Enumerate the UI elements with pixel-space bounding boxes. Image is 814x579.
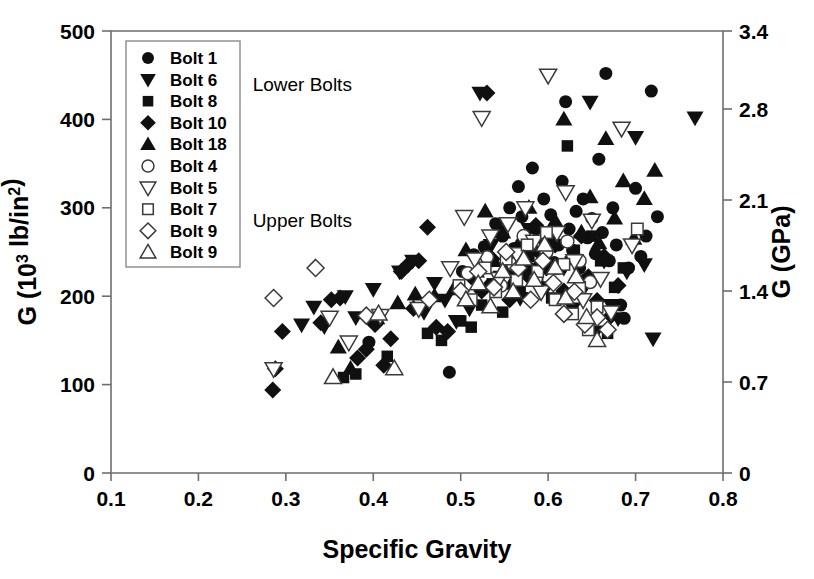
- data-point-circle-filled: [651, 210, 664, 223]
- data-point-diamond-open: [307, 259, 324, 276]
- legend[interactable]: Bolt 1Bolt 6Bolt 8Bolt 10Bolt 18Bolt 4Bo…: [126, 41, 240, 267]
- x-tick-label: 0.1: [96, 487, 126, 510]
- annotation-lower-bolts: Lower Bolts: [253, 74, 352, 95]
- data-point-circle-filled: [629, 182, 642, 195]
- data-point-square-open: [521, 239, 533, 251]
- data-points-layer: [264, 67, 703, 398]
- data-point-circle-filled: [537, 192, 550, 205]
- x-axis-title: Specific Gravity: [323, 535, 512, 563]
- legend-item-label: Bolt 8: [170, 92, 217, 111]
- x-tick-label: 0.2: [184, 487, 213, 510]
- y-tick-label-left: 200: [60, 285, 95, 308]
- data-point-diamond-filled: [274, 323, 291, 340]
- legend-item-label: Bolt 9: [170, 222, 217, 241]
- x-axis-ticks: 0.10.20.30.40.50.60.70.8: [96, 473, 738, 510]
- group-annotations: Lower BoltsUpper Bolts: [253, 74, 352, 231]
- data-point-triangle-down-open: [540, 69, 557, 84]
- x-tick-label: 0.7: [621, 487, 650, 510]
- y-tick-label-right: 0: [739, 462, 751, 485]
- y-axis-title-right: G (GPa): [767, 205, 795, 298]
- data-point-triangle-down-filled: [365, 283, 382, 298]
- y-axis-right-ticks: 00.71.42.12.83.4: [723, 20, 769, 485]
- x-tick-label: 0.6: [534, 487, 563, 510]
- y-tick-label-right: 2.1: [739, 189, 769, 212]
- legend-item-label: Bolt 10: [170, 114, 227, 133]
- y-tick-label-left: 0: [83, 462, 95, 485]
- data-point-circle-filled: [512, 180, 525, 193]
- data-point-square-filled: [562, 140, 574, 152]
- data-point-square-filled: [455, 315, 467, 327]
- data-point-diamond-filled: [264, 381, 281, 398]
- data-point-triangle-down-filled: [645, 333, 662, 348]
- data-point-triangle-down-open: [583, 214, 600, 229]
- data-point-triangle-up-filled: [477, 203, 494, 218]
- data-point-circle-filled: [610, 238, 623, 251]
- data-point-triangle-down-filled: [636, 258, 653, 273]
- data-point-triangle-up-filled: [615, 173, 632, 188]
- data-point-triangle-down-filled: [686, 112, 703, 127]
- legend-item-label: Bolt 18: [170, 135, 227, 154]
- x-tick-label: 0.8: [708, 487, 738, 510]
- legend-item-label: Bolt 7: [170, 200, 217, 219]
- legend-item-label: Bolt 9: [170, 243, 217, 262]
- data-point-triangle-down-filled: [627, 131, 644, 146]
- y-tick-label-right: 1.4: [739, 280, 769, 303]
- y-tick-label-right: 2.8: [739, 98, 769, 121]
- data-point-square-filled: [618, 262, 630, 274]
- data-point-triangle-down-filled: [305, 301, 322, 316]
- data-point-square-open: [143, 204, 154, 215]
- annotation-upper-bolts: Upper Bolts: [253, 210, 352, 231]
- data-point-triangle-up-filled: [389, 295, 406, 310]
- data-point-triangle-up-filled: [555, 111, 572, 126]
- data-point-triangle-down-open: [613, 122, 630, 137]
- y-tick-label-right: 3.4: [739, 20, 769, 43]
- data-point-circle-filled: [570, 205, 583, 218]
- data-point-circle-filled: [599, 67, 612, 80]
- scatter-plot-figure: 0.10.20.30.40.50.60.70.8 010020030040050…: [0, 0, 814, 579]
- y-axis-title-left: G (103 lb/in2): [0, 179, 41, 326]
- y-tick-label-left: 100: [60, 373, 95, 396]
- data-point-triangle-up-filled: [597, 130, 614, 145]
- data-point-triangle-up-filled: [646, 162, 663, 177]
- legend-item-label: Bolt 1: [170, 49, 217, 68]
- x-tick-label: 0.5: [446, 487, 476, 510]
- data-point-square-open: [632, 223, 644, 235]
- data-point-triangle-down-open: [473, 112, 490, 127]
- data-point-circle-filled: [606, 201, 619, 214]
- data-point-square-open: [541, 227, 553, 239]
- data-point-circle-filled: [645, 85, 658, 98]
- data-point-diamond-open: [599, 321, 616, 338]
- legend-item-label: Bolt 4: [170, 157, 218, 176]
- y-tick-label-right: 0.7: [739, 371, 768, 394]
- data-point-diamond-filled: [382, 330, 399, 347]
- data-point-circle-filled: [142, 52, 154, 64]
- data-point-circle-filled: [526, 162, 539, 175]
- x-tick-label: 0.3: [271, 487, 300, 510]
- y-axis-left-ticks: 0100200300400500: [60, 20, 111, 485]
- data-point-circle-filled: [503, 201, 516, 214]
- data-point-square-filled: [143, 96, 154, 107]
- data-point-square-filled: [465, 321, 477, 333]
- y-tick-label-left: 500: [60, 20, 95, 43]
- data-point-triangle-down-open: [442, 262, 459, 277]
- y-tick-label-left: 400: [60, 108, 95, 131]
- data-point-diamond-open: [265, 289, 282, 306]
- data-point-diamond-filled: [419, 219, 436, 236]
- data-point-triangle-down-filled: [293, 318, 310, 333]
- data-point-triangle-down-open: [456, 211, 473, 226]
- data-point-triangle-down-open: [557, 186, 574, 201]
- data-point-circle-filled: [559, 95, 572, 108]
- data-point-triangle-down-filled: [582, 96, 599, 111]
- legend-item-label: Bolt 6: [170, 71, 217, 90]
- x-tick-label: 0.4: [359, 487, 389, 510]
- data-point-circle-filled: [443, 366, 456, 379]
- y-tick-label-left: 300: [60, 196, 95, 219]
- data-point-circle-filled: [592, 153, 605, 166]
- data-point-circle-open: [142, 160, 154, 172]
- legend-item-label: Bolt 5: [170, 179, 217, 198]
- chart-canvas: 0.10.20.30.40.50.60.70.8 010020030040050…: [0, 0, 814, 579]
- data-point-circle-open: [561, 235, 574, 248]
